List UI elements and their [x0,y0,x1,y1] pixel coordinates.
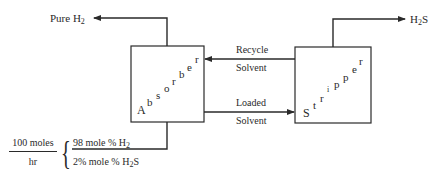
pure-h2-label: Pure H2 [50,13,85,26]
stripper-letter: t [313,100,316,111]
feed-rate-denominator: hr [9,152,57,167]
recycle-label-line2: Solvent [236,63,267,73]
stripper-letter: S [303,107,310,119]
absorber-letter: s [156,90,160,101]
h2s-line [333,19,405,47]
recycle-label-line1: Recycle [236,45,268,55]
absorber-letter: e [187,62,192,73]
pure-h2-line [94,18,167,46]
stripper-letter: p [334,79,340,90]
absorber-letter: b [179,69,185,80]
stripper-letter: p [343,72,349,83]
stripper-letter: r [359,56,363,67]
absorber-letter: A [137,104,146,116]
absorber-letter: o [164,83,170,94]
feed-rate: 100 moles hr [9,137,57,167]
feed-composition-h2: 98 mole % H2 [73,137,130,150]
brace-icon: { [61,136,71,170]
feed-composition-h2s: 2% mole % H2S [73,156,139,169]
stripper-letter: e [352,64,357,75]
absorber-letter: r [172,76,176,87]
feed-rate-numerator: 100 moles [9,137,57,152]
absorber-letter: b [147,97,153,108]
loaded-label-line2: Solvent [236,116,267,126]
loaded-label-line1: Loaded [236,98,266,108]
stripper-letter: i [327,86,329,94]
stripper-letter: r [320,93,324,104]
absorber-letter: r [195,54,199,65]
h2s-label: H2S [410,14,428,27]
